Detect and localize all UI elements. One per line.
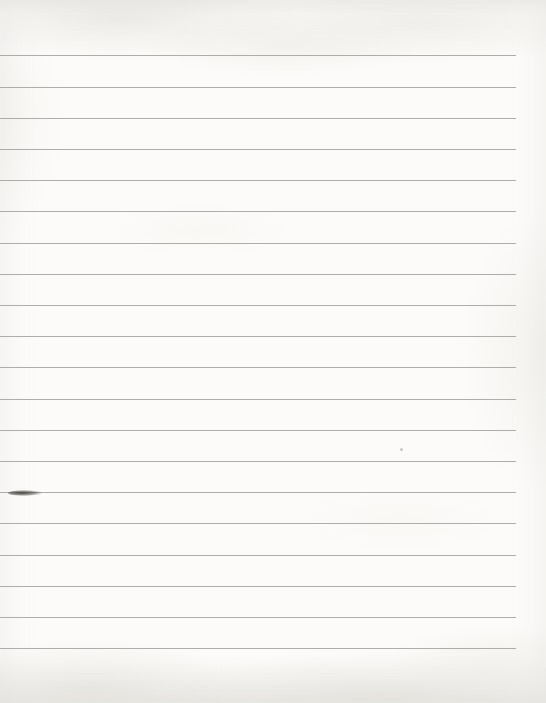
- ruled-line: [0, 617, 516, 618]
- ruled-line: [0, 399, 516, 400]
- ruled-line: [0, 87, 516, 88]
- ruled-line: [0, 149, 516, 150]
- ruled-line: [0, 586, 516, 587]
- ruled-line: [0, 492, 516, 493]
- paper-texture: [0, 0, 546, 703]
- ruled-line: [0, 211, 516, 212]
- ruled-line: [0, 180, 516, 181]
- ruled-line: [0, 367, 516, 368]
- ruled-line: [0, 523, 516, 524]
- paper-sheet: [0, 0, 546, 703]
- ruled-line: [0, 555, 516, 556]
- paper-speck: [400, 448, 403, 451]
- ruled-line: [0, 461, 516, 462]
- ruled-line: [0, 118, 516, 119]
- ruled-line: [0, 305, 516, 306]
- ruled-line: [0, 336, 516, 337]
- ruled-line: [0, 430, 516, 431]
- ruled-line: [0, 648, 516, 649]
- ink-smudge: [8, 490, 42, 496]
- ruled-line: [0, 55, 516, 56]
- ruled-line: [0, 274, 516, 275]
- ruled-line: [0, 243, 516, 244]
